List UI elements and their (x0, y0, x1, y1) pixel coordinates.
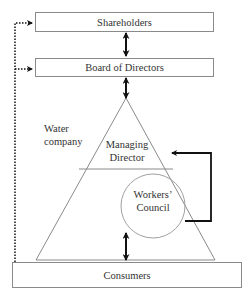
consumers-label: Consumers (103, 270, 150, 281)
managing-director-label: Managing Director (96, 138, 158, 164)
shareholders-box: Shareholders (35, 12, 214, 32)
consumers-box: Consumers (12, 262, 242, 288)
shareholders-label: Shareholders (97, 17, 152, 28)
consumer-feedback-dotted-line (15, 23, 32, 262)
board-label: Board of Directors (85, 62, 164, 73)
water-company-label: Water company (44, 122, 83, 148)
workers-council-label: Workers’ Council (124, 188, 182, 214)
board-of-directors-box: Board of Directors (35, 58, 214, 77)
